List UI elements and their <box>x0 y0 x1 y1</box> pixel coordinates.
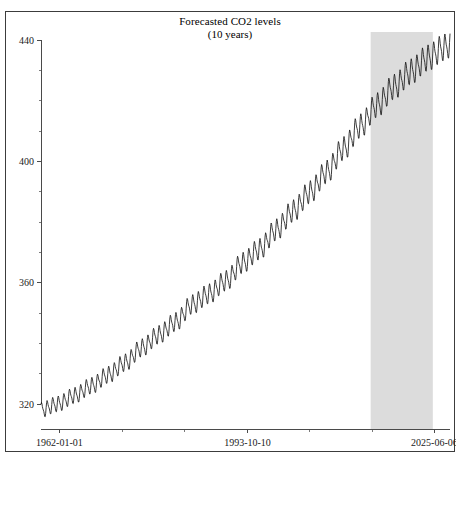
top-cropped-text-fragment <box>3 0 123 4</box>
y-tick-label: 360 <box>19 277 34 288</box>
forecast-band <box>371 32 433 429</box>
x-tick-label: 1962-01-01 <box>36 437 83 448</box>
x-tick-label: 1993-10-10 <box>224 437 271 448</box>
x-axis-labels-group: 1962-01-011993-10-102025-06-06 <box>36 437 456 448</box>
chart-frame: Forecasted CO2 levels (10 years) 3203604… <box>5 11 455 452</box>
plot-canvas: 320360400440 1962-01-011993-10-102025-06… <box>6 12 456 453</box>
y-axis-ticks-group <box>37 40 41 404</box>
y-tick-label: 440 <box>19 35 34 46</box>
y-axis-labels-group: 320360400440 <box>19 35 34 410</box>
chart-svg: 320360400440 1962-01-011993-10-102025-06… <box>6 12 456 453</box>
y-tick-label: 400 <box>19 156 34 167</box>
x-tick-label: 2025-06-06 <box>411 437 456 448</box>
forecast-band-group <box>371 32 433 429</box>
x-axis-ticks-group <box>59 429 434 433</box>
y-tick-label: 320 <box>19 399 34 410</box>
